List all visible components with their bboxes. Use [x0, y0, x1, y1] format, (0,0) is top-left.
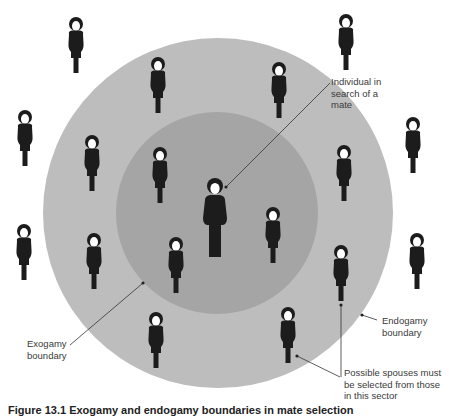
- spouses-leader-line-diagonal: [297, 356, 340, 377]
- exogamy-boundary-label: Exogamy boundary: [27, 338, 67, 361]
- endogamy-leader-dot: [360, 313, 363, 316]
- spouses-leader-dot-top: [339, 303, 342, 306]
- person-figure: [338, 14, 353, 70]
- figure-caption: Figure 13.1 Exogamy and endogamy boundar…: [8, 404, 353, 416]
- person-figure: [17, 110, 32, 166]
- person-figure: [16, 224, 31, 280]
- spouses-leader-dot-bottom: [295, 354, 298, 357]
- person-figure: [409, 233, 424, 289]
- person-figure: [405, 117, 420, 173]
- possible-spouses-label: Possible spouses must be selected from t…: [344, 367, 441, 402]
- person-figure: [68, 17, 83, 73]
- endogamy-leader-line: [362, 315, 377, 320]
- endogamy-boundary-label: Endogamy boundary: [382, 315, 427, 338]
- individual-leader-dot: [224, 185, 227, 188]
- individual-label: Individual in search of a mate: [331, 76, 381, 111]
- exogamy-leader-dot: [141, 281, 144, 284]
